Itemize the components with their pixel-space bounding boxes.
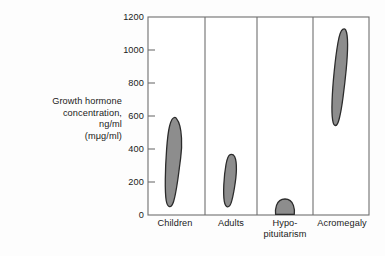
category-label-hypopituitarism-line-1: Hypo- [252,218,318,229]
category-label-adults: Adults [203,218,259,229]
category-label-hypopituitarism: Hypo- pituitarism [252,218,318,241]
category-label-acromegaly: Acromegaly [311,218,373,229]
category-label-hypopituitarism-line-2: pituitarism [252,229,318,240]
blob-hypopituitarism [275,199,294,214]
category-label-children: Children [146,218,204,229]
category-label-children-line-1: Children [146,218,204,229]
category-label-adults-line-1: Adults [203,218,259,229]
category-label-acromegaly-line-1: Acromegaly [311,218,373,229]
growth-hormone-chart: Growth hormone concentration, ng/ml (mμg… [0,0,385,256]
